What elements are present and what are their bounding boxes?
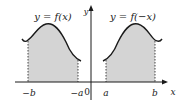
x-axis-arrow-icon <box>162 80 168 85</box>
reflection-diagram: y = f(x) y = f(−x) y x −b −a 0 a b <box>0 0 179 103</box>
tick-label-neg-b: −b <box>22 88 36 98</box>
origin-label: 0 <box>84 87 90 97</box>
left-equation-label: y = f(x) <box>33 11 72 22</box>
y-axis-label: y <box>83 7 89 16</box>
tick-label-b: b <box>152 88 158 98</box>
x-axis-label: x <box>170 87 175 97</box>
right-equation-label: y = f(−x) <box>109 11 156 22</box>
tick-label-a: a <box>103 88 108 98</box>
tick-label-neg-a: −a <box>71 88 84 98</box>
y-axis-arrow-icon <box>89 5 94 11</box>
